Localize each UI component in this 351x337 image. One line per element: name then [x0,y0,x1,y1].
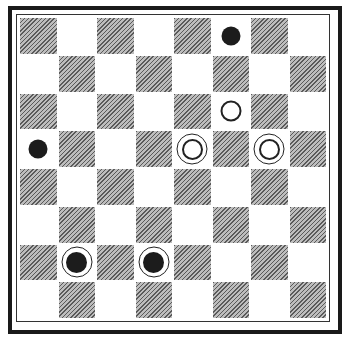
board-square[interactable] [59,56,96,92]
board-square[interactable] [174,94,211,130]
board-square[interactable] [213,131,250,167]
board-square[interactable] [173,281,212,319]
board-square[interactable] [212,93,251,131]
board-square[interactable] [97,169,134,205]
board-square[interactable] [251,245,288,281]
board-square[interactable] [289,244,328,282]
board-square[interactable] [58,93,97,131]
board-square[interactable] [136,207,173,243]
board-square[interactable] [290,131,327,167]
black-king-piece[interactable] [61,247,92,278]
board-square[interactable] [135,17,174,55]
board-square[interactable] [59,207,96,243]
board-square[interactable] [174,245,211,281]
board-square[interactable] [19,55,58,93]
board-square[interactable] [59,131,96,167]
board-square[interactable] [212,244,251,282]
board-square[interactable] [97,18,134,54]
board-square[interactable] [19,130,58,168]
black-man-piece[interactable] [221,26,240,45]
board-square[interactable] [97,94,134,130]
board-square[interactable] [96,206,135,244]
board-square[interactable] [135,244,174,282]
board-square[interactable] [212,168,251,206]
board-square[interactable] [136,282,173,318]
board-square[interactable] [251,94,288,130]
white-king-piece[interactable] [254,134,285,165]
board-square[interactable] [290,207,327,243]
board-square[interactable] [58,168,97,206]
board-square[interactable] [20,94,57,130]
board-square[interactable] [212,17,251,55]
board-square[interactable] [59,282,96,318]
board-square[interactable] [136,56,173,92]
board-square[interactable] [20,18,57,54]
board-square[interactable] [19,206,58,244]
board-square[interactable] [289,93,328,131]
board-square[interactable] [96,281,135,319]
board-square[interactable] [19,281,58,319]
board-square[interactable] [289,17,328,55]
board-square[interactable] [173,55,212,93]
board-square[interactable] [96,55,135,93]
board-square[interactable] [250,55,289,93]
board-square[interactable] [290,282,327,318]
board-square[interactable] [97,245,134,281]
board-square[interactable] [289,168,328,206]
board-square[interactable] [58,244,97,282]
board-square[interactable] [20,245,57,281]
board-square[interactable] [250,130,289,168]
board-square[interactable] [136,131,173,167]
board-square[interactable] [135,168,174,206]
board-square[interactable] [251,18,288,54]
board-square[interactable] [20,169,57,205]
board-square[interactable] [213,207,250,243]
board-square[interactable] [173,130,212,168]
board-square[interactable] [96,130,135,168]
board-square[interactable] [250,281,289,319]
board-square[interactable] [174,18,211,54]
board-square[interactable] [251,169,288,205]
board-square[interactable] [173,206,212,244]
black-king-piece[interactable] [138,247,169,278]
board-square[interactable] [250,206,289,244]
white-man-piece[interactable] [220,101,241,122]
board-square[interactable] [213,282,250,318]
white-king-piece[interactable] [177,134,208,165]
board-square[interactable] [58,17,97,55]
checkers-board [19,17,327,319]
black-man-piece[interactable] [29,140,48,159]
board-square[interactable] [213,56,250,92]
board-square[interactable] [290,56,327,92]
board-square[interactable] [174,169,211,205]
board-square[interactable] [135,93,174,131]
